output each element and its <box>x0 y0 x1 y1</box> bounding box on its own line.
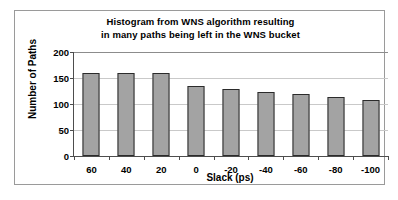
bar-slot <box>248 52 283 156</box>
bar-slot <box>283 52 318 156</box>
y-tick-label: 100 <box>35 99 69 110</box>
y-tick-label: 50 <box>35 125 69 136</box>
bar-slot <box>214 52 249 156</box>
x-tick-mark <box>144 156 145 160</box>
chart-title-line-2: in many paths being left in the WNS buck… <box>15 29 386 42</box>
x-tick-mark <box>179 156 180 160</box>
bar-slot <box>353 52 388 156</box>
x-tick-mark <box>74 156 75 160</box>
bar <box>188 86 205 156</box>
bar-slot <box>74 52 109 156</box>
x-tick-mark <box>214 156 215 160</box>
bar <box>83 73 100 156</box>
bar <box>222 89 239 156</box>
x-tick-mark <box>248 156 249 160</box>
bar <box>362 100 379 156</box>
x-tick-mark <box>318 156 319 160</box>
y-tick-label: 0 <box>35 151 69 162</box>
y-tick-label: 150 <box>35 73 69 84</box>
bar <box>257 92 274 156</box>
plot-area: 050100150200 6040200-20-40-60-80-100 <box>73 52 388 157</box>
bar-slot <box>318 52 353 156</box>
chart-title: Histogram from WNS algorithm resulting i… <box>15 16 386 41</box>
bar-slot <box>144 52 179 156</box>
chart-title-line-1: Histogram from WNS algorithm resulting <box>15 16 386 29</box>
x-axis-title: Slack (ps) <box>73 172 387 183</box>
bar <box>153 73 170 156</box>
x-tick-mark <box>283 156 284 160</box>
bar <box>292 94 309 156</box>
x-tick-mark <box>353 156 354 160</box>
y-tick-label: 200 <box>35 47 69 58</box>
bar <box>327 97 344 156</box>
x-tick-mark <box>388 156 389 160</box>
chart-figure: Histogram from WNS algorithm resulting i… <box>14 10 385 185</box>
bar-slot <box>109 52 144 156</box>
bar-slot <box>179 52 214 156</box>
x-tick-mark <box>109 156 110 160</box>
bar-series <box>74 52 388 156</box>
bar <box>118 73 135 156</box>
